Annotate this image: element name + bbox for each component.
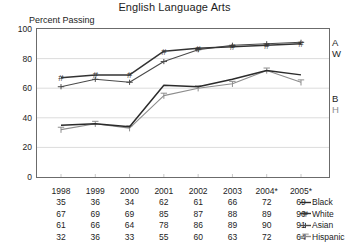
- table-cell: 85: [147, 209, 181, 219]
- series-white: ########: [58, 38, 304, 83]
- table-cell: 69: [78, 209, 112, 219]
- table-cell: 34: [113, 197, 147, 207]
- table-cell: 72: [250, 232, 284, 242]
- table-cell: 66: [78, 220, 112, 230]
- legend-label: White: [312, 209, 334, 219]
- marker-hash: #: [298, 38, 304, 49]
- legend-item-hispanic: Hispanic: [300, 232, 345, 242]
- series-canvas: ########: [37, 29, 329, 177]
- table-cell: 61: [181, 197, 215, 207]
- table-cell: 35: [44, 197, 78, 207]
- marker-hash: #: [303, 209, 309, 218]
- table-cell: 61: [44, 220, 78, 230]
- marker-hash: #: [58, 72, 64, 83]
- chart-screenshot: English Language Arts Percent Passing 02…: [0, 0, 349, 244]
- x-tick-label: 2004*: [250, 186, 284, 196]
- x-tick-label: 2000: [113, 186, 147, 196]
- table-cell: 78: [147, 220, 181, 230]
- table-cell: 32: [44, 232, 78, 242]
- table-cell: 60: [181, 232, 215, 242]
- table-cell: 72: [250, 197, 284, 207]
- y-tick-label: 60: [2, 83, 32, 93]
- table-cell: 64: [113, 220, 147, 230]
- legend-marker-icon: [300, 221, 311, 230]
- marker-hash: #: [230, 41, 236, 52]
- y-tick-label: 20: [2, 142, 32, 152]
- table-cell: 36: [78, 197, 112, 207]
- legend-label: Hispanic: [312, 232, 345, 242]
- table-cell: 33: [113, 232, 147, 242]
- marker-hash: #: [195, 43, 201, 54]
- legend-label: Black: [312, 197, 333, 207]
- series-end-label: H: [332, 104, 339, 115]
- x-tick-label: 2003: [215, 186, 249, 196]
- x-tick-label: 1998: [44, 186, 78, 196]
- marker-hash: #: [264, 40, 270, 51]
- table-cell: 89: [250, 209, 284, 219]
- legend-item-white: #White: [300, 209, 334, 219]
- table-cell: 89: [215, 220, 249, 230]
- table-cell: 63: [215, 232, 249, 242]
- marker-hash: #: [127, 69, 133, 80]
- legend-label: Asian: [312, 220, 333, 230]
- table-cell: 62: [147, 197, 181, 207]
- x-tick-label: 2005*: [284, 186, 318, 196]
- table-cell: 86: [181, 220, 215, 230]
- series-end-label: W: [332, 48, 341, 59]
- x-tick-label: 1999: [78, 186, 112, 196]
- legend-marker-icon: #: [300, 209, 311, 218]
- legend-item-black: Black: [300, 197, 333, 207]
- y-tick-label: 100: [2, 24, 32, 34]
- legend-marker-icon: [300, 232, 311, 241]
- table-cell: 66: [215, 197, 249, 207]
- x-tick-label: 2001: [147, 186, 181, 196]
- table-row: 6166647886899091Asian: [0, 220, 349, 231]
- table-cell: 88: [215, 209, 249, 219]
- marker-hash: #: [161, 46, 167, 57]
- table-row: 3236335560637264Hispanic: [0, 232, 349, 243]
- plot-area: ########: [36, 28, 330, 178]
- table-cell: 69: [113, 209, 147, 219]
- series-end-label: A: [332, 37, 338, 48]
- series-end-label: B: [332, 93, 338, 104]
- table-cell: 67: [44, 209, 78, 219]
- page-title: English Language Arts: [0, 1, 349, 13]
- legend-item-asian: Asian: [300, 220, 333, 230]
- table-cell: 87: [181, 209, 215, 219]
- legend-marker-icon: [300, 198, 311, 207]
- table-cell: 36: [78, 232, 112, 242]
- table-cell: 55: [147, 232, 181, 242]
- table-row: 3536346261667269Black: [0, 197, 349, 208]
- y-tick-label: 0: [2, 172, 32, 182]
- table-row: 6769698587888990#White: [0, 209, 349, 220]
- x-tick-label: 2002: [181, 186, 215, 196]
- data-table: 3536346261667269Black6769698587888990#Wh…: [0, 197, 349, 244]
- y-tick-label: 40: [2, 113, 32, 123]
- x-axis-ticks: 1998199920002001200220032004*2005*: [0, 186, 349, 197]
- table-cell: 90: [250, 220, 284, 230]
- y-tick-label: 80: [2, 54, 32, 64]
- marker-hash: #: [93, 69, 99, 80]
- y-axis-label: Percent Passing: [29, 15, 95, 25]
